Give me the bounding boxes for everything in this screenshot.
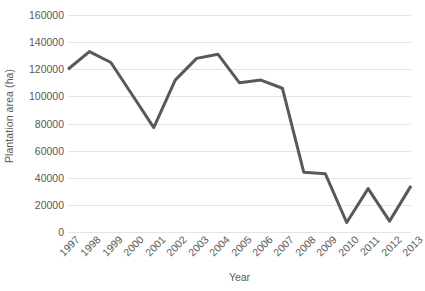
x-tick-label: 2003 bbox=[186, 234, 210, 258]
x-tick-label: 2005 bbox=[229, 234, 253, 258]
x-tick-label: 2006 bbox=[250, 234, 274, 258]
x-tick-label: 2011 bbox=[358, 234, 382, 258]
x-tick-label: 2013 bbox=[400, 234, 424, 258]
x-tick-label: 2001 bbox=[143, 234, 167, 258]
y-tick-label: 20000 bbox=[35, 200, 64, 211]
gridline bbox=[68, 232, 411, 233]
y-tick-label: 0 bbox=[58, 227, 64, 238]
y-tick-label: 100000 bbox=[29, 91, 64, 102]
x-tick-label: 1999 bbox=[100, 234, 124, 258]
y-tick-label: 40000 bbox=[35, 173, 64, 184]
series-line-plantation-area bbox=[68, 15, 411, 232]
x-tick-label: 2008 bbox=[293, 234, 317, 258]
x-tick-label: 2000 bbox=[122, 234, 146, 258]
y-axis-tick-labels: 0200004000060000800001000001200001400001… bbox=[18, 0, 68, 247]
plot-area bbox=[68, 15, 411, 232]
y-axis-title: Plantation area (ha) bbox=[0, 0, 18, 232]
y-tick-label: 160000 bbox=[29, 10, 64, 21]
x-tick-label: 1998 bbox=[79, 234, 103, 258]
y-tick-label: 120000 bbox=[29, 64, 64, 75]
y-axis-title-text: Plantation area (ha) bbox=[3, 69, 15, 163]
x-tick-label: 2010 bbox=[336, 234, 360, 258]
x-tick-label: 2004 bbox=[208, 234, 232, 258]
x-tick-label: 2012 bbox=[379, 234, 403, 258]
x-tick-label: 2009 bbox=[315, 234, 339, 258]
x-axis-title: Year bbox=[68, 271, 411, 283]
x-tick-label: 2002 bbox=[165, 234, 189, 258]
y-tick-label: 80000 bbox=[35, 118, 64, 129]
x-tick-label: 2007 bbox=[272, 234, 296, 258]
y-tick-label: 60000 bbox=[35, 145, 64, 156]
x-axis-tick-labels: 1997199819992000200120022003200420052006… bbox=[68, 234, 411, 274]
series-polyline bbox=[68, 52, 411, 223]
y-tick-label: 140000 bbox=[29, 37, 64, 48]
